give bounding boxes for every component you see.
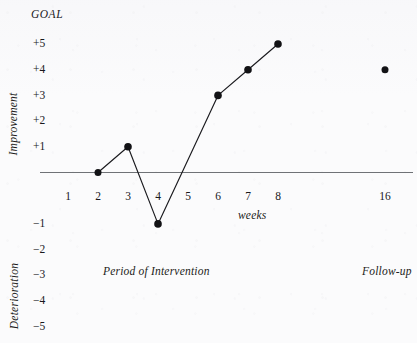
data-point-week-16-followup <box>382 66 389 73</box>
plot-area <box>0 0 417 343</box>
x-axis-title-weeks: weeks <box>238 209 266 221</box>
data-point-week-6 <box>214 92 222 100</box>
chart-figure: GOAL Improvement Deterioration +5 +4 +3 … <box>0 0 417 343</box>
annotation-period-of-intervention: Period of Intervention <box>103 265 210 277</box>
data-point-week-4 <box>154 220 162 228</box>
data-point-week-8 <box>274 40 282 48</box>
data-point-week-7 <box>244 66 252 74</box>
annotation-follow-up: Follow-up <box>362 265 412 277</box>
data-point-week-2 <box>95 169 102 176</box>
data-point-week-3 <box>124 143 132 151</box>
